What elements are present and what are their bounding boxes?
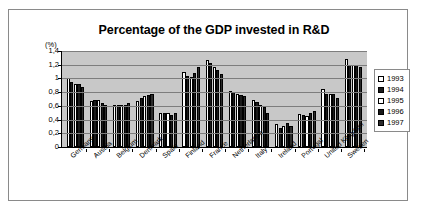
legend-item: 1994 xyxy=(378,84,406,95)
x-axis-tick-mark xyxy=(156,149,157,152)
x-axis-labels: GermanyAustriaBelgiumDenmarkSpainFinland… xyxy=(61,149,366,211)
legend-swatch-icon xyxy=(378,87,384,93)
y-axis-tick-mark xyxy=(58,65,61,66)
x-axis-tick-mark xyxy=(202,149,203,152)
legend-label: 1993 xyxy=(387,73,404,84)
gridline xyxy=(62,133,367,134)
legend-label: 1995 xyxy=(387,95,404,106)
y-axis-tick-mark xyxy=(58,78,61,79)
x-axis-tick-mark xyxy=(341,149,342,152)
gridline xyxy=(62,51,367,52)
x-axis-tick-mark xyxy=(225,149,226,152)
y-axis-tick-mark xyxy=(58,51,61,52)
legend-swatch-icon xyxy=(378,109,384,115)
legend-item: 1997 xyxy=(378,117,406,128)
gridline xyxy=(62,65,367,66)
legend-swatch-icon xyxy=(378,76,384,82)
bar xyxy=(220,74,223,147)
x-axis-tick-mark xyxy=(271,149,272,152)
y-axis-tick-mark xyxy=(58,133,61,134)
legend-label: 1997 xyxy=(387,117,404,128)
plot-area xyxy=(61,51,367,148)
legend-swatch-icon xyxy=(378,98,384,104)
legend-item: 1993 xyxy=(378,73,406,84)
chart-legend: 19931994199519961997 xyxy=(374,69,410,132)
legend-swatch-icon xyxy=(378,120,384,126)
y-axis-tick-mark xyxy=(58,147,61,148)
x-axis-tick-mark xyxy=(364,149,365,152)
chart-title: Percentage of the GDP invested in R&D xyxy=(69,23,359,37)
x-axis-tick-mark xyxy=(109,149,110,152)
gridline xyxy=(62,106,367,107)
legend-label: 1994 xyxy=(387,84,404,95)
y-axis-tick-mark xyxy=(58,120,61,121)
bar xyxy=(266,113,269,147)
x-axis-tick-mark xyxy=(295,149,296,152)
x-axis-tick-mark xyxy=(179,149,180,152)
x-axis-tick-mark xyxy=(318,149,319,152)
x-axis-tick-mark xyxy=(86,149,87,152)
y-axis-labels: 00,20,40,60,811,21,4 xyxy=(31,44,59,154)
legend-label: 1996 xyxy=(387,106,404,117)
chart-frame: Percentage of the GDP invested in R&D (%… xyxy=(8,9,408,201)
gridline xyxy=(62,92,367,93)
legend-item: 1995 xyxy=(378,95,406,106)
x-axis-tick-mark xyxy=(248,149,249,152)
legend-item: 1996 xyxy=(378,106,406,117)
gridline xyxy=(62,120,367,121)
y-axis-tick-mark xyxy=(58,92,61,93)
gridline xyxy=(62,78,367,79)
bar xyxy=(81,87,84,147)
y-axis-tick-mark xyxy=(58,106,61,107)
x-axis-tick-mark xyxy=(132,149,133,152)
